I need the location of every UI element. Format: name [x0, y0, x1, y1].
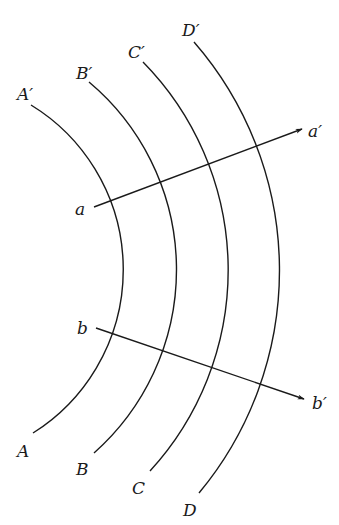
- label-c-wavefront: C: [132, 478, 145, 498]
- wavefront-diagram: A′ B′ C′ D′ A B C D a a′ b b′: [0, 0, 339, 525]
- diagram-svg: A′ B′ C′ D′ A B C D a a′ b b′: [0, 0, 339, 525]
- wavefront-arc-b: [89, 82, 176, 453]
- wavefront-arc-c: [143, 62, 228, 471]
- label-a-prime-wavefront: A′: [15, 84, 33, 104]
- ray-labels: a a′ b b′: [75, 121, 327, 413]
- wavefront-arcs: [31, 42, 279, 493]
- label-b-wavefront: B: [75, 459, 89, 479]
- wavefront-arc-d: [194, 42, 279, 493]
- wavefront-arc-a: [31, 105, 123, 433]
- label-ray-b: b: [77, 318, 88, 338]
- label-d-wavefront: D: [182, 500, 197, 520]
- label-ray-b-prime: b′: [312, 393, 327, 413]
- label-a-wavefront: A: [15, 441, 29, 461]
- label-b-prime-wavefront: B′: [75, 63, 92, 83]
- ray-lines: [94, 129, 304, 399]
- label-ray-a: a: [75, 199, 85, 219]
- label-ray-a-prime: a′: [308, 121, 322, 141]
- label-c-prime-wavefront: C′: [128, 42, 145, 62]
- label-d-prime-wavefront: D′: [181, 20, 200, 40]
